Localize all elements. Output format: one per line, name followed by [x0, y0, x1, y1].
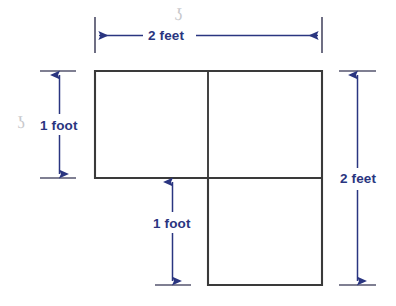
- dimension-label-top: 2 feet: [143, 28, 189, 45]
- diagram-canvas: 2 feet 1 foot 1 foot 2 feet ʖ ʖ: [0, 0, 396, 306]
- dimension-label-bottom: 1 foot: [149, 216, 195, 233]
- handwritten-scribble-mark-left: ʖ: [16, 114, 25, 131]
- dimension-label-right: 2 feet: [336, 170, 380, 189]
- dimension-bottom-1-foot: [155, 182, 191, 285]
- dimension-label-left: 1 foot: [36, 118, 81, 135]
- dimension-top-2-feet: [95, 17, 322, 53]
- l-shape-diagram: [0, 0, 396, 306]
